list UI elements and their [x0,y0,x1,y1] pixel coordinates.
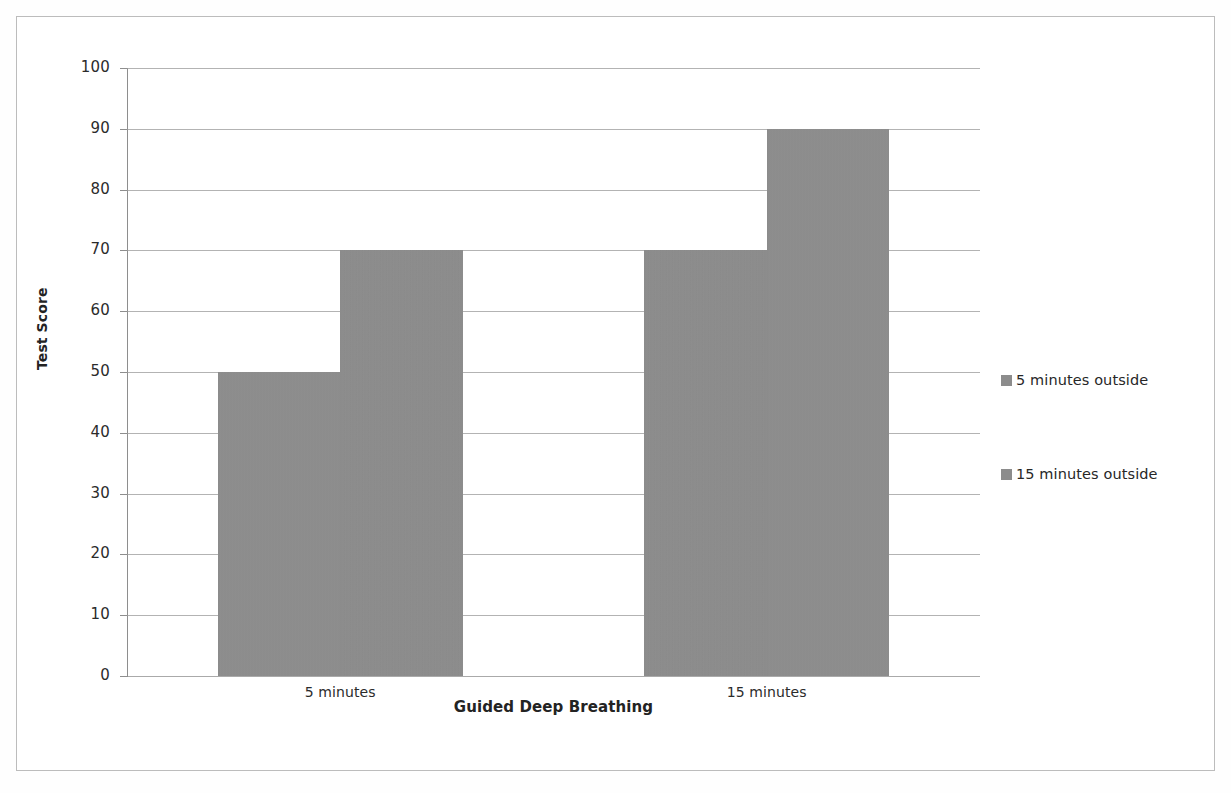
legend-item-series-2[interactable]: 15 minutes outside [1001,466,1158,482]
y-tick-mark [120,190,127,191]
legend-swatch-icon [1001,469,1012,480]
bar [340,250,463,676]
y-tick-mark [120,433,127,434]
gridline [127,68,980,69]
y-tick-label: 40 [64,425,110,440]
y-tick-label: 20 [64,546,110,561]
y-tick-label: 80 [64,182,110,197]
legend-item-label: 5 minutes outside [1016,372,1148,388]
bar [644,250,767,676]
legend-swatch-icon [1001,375,1012,386]
y-tick-mark [120,250,127,251]
y-tick-label: 30 [64,486,110,501]
y-tick-mark [120,676,127,677]
y-tick-mark [120,615,127,616]
y-tick-mark [120,554,127,555]
y-tick-label: 100 [64,60,110,75]
y-tick-mark [120,311,127,312]
y-tick-mark [120,68,127,69]
chart-page: 1009080706050403020100 5 minutes15 minut… [0,0,1231,793]
y-tick-label: 50 [64,364,110,379]
legend-item-series-1[interactable]: 5 minutes outside [1001,372,1148,388]
y-tick-mark [120,129,127,130]
legend-item-label: 15 minutes outside [1016,466,1158,482]
y-tick-label: 60 [64,303,110,318]
y-tick-label: 70 [64,242,110,257]
plot-area [127,68,980,676]
x-axis-title: Guided Deep Breathing [127,698,980,716]
y-tick-mark [120,372,127,373]
y-tick-mark [120,494,127,495]
y-tick-label: 10 [64,607,110,622]
gridline [127,676,980,677]
y-tick-label: 0 [64,668,110,683]
bar [767,129,890,676]
y-axis-title: Test Score [34,250,50,370]
y-tick-label: 90 [64,121,110,136]
bar [218,372,341,676]
